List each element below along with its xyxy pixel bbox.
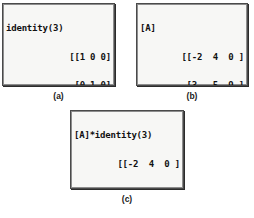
calculator-screen-a[interactable]: identity(3) [[1 0 0] [0 1 0] [0 0 1]]	[2, 3, 115, 86]
caption-a: (a)	[2, 91, 115, 101]
screen-b-entry: [A]	[140, 24, 245, 34]
caption-b: (b)	[136, 91, 248, 101]
screen-c-text: [A]*identity(3) [[-2 4 0 ] [3 5 9 ] [0 8…	[74, 112, 181, 189]
screen-a-result-row-1: [[1 0 0]	[6, 53, 112, 63]
caption-c: (c)	[70, 194, 184, 204]
calculator-screens-figure: identity(3) [[1 0 0] [0 1 0] [0 0 1]] (a…	[0, 0, 254, 218]
screen-c-result-row-1: [[-2 4 0 ]	[74, 160, 181, 170]
calculator-panel-b: [A] [[-2 4 0 ] [3 5 9 ] [0 8 -6]]	[136, 3, 248, 86]
screen-b-result-row-2: [3 5 9 ]	[140, 81, 245, 86]
screen-b-result-row-1: [[-2 4 0 ]	[140, 53, 245, 63]
screen-a-entry: identity(3)	[6, 24, 112, 34]
screen-c-entry: [A]*identity(3)	[74, 131, 181, 141]
calculator-screen-c[interactable]: [A]*identity(3) [[-2 4 0 ] [3 5 9 ] [0 8…	[70, 110, 184, 189]
screen-b-text: [A] [[-2 4 0 ] [3 5 9 ] [0 8 -6]]	[140, 5, 245, 86]
screen-a-text: identity(3) [[1 0 0] [0 1 0] [0 0 1]]	[6, 5, 112, 86]
calculator-panel-c: [A]*identity(3) [[-2 4 0 ] [3 5 9 ] [0 8…	[70, 110, 184, 189]
screen-c-result-row-2: [3 5 9 ]	[74, 188, 181, 189]
calculator-screen-b[interactable]: [A] [[-2 4 0 ] [3 5 9 ] [0 8 -6]]	[136, 3, 248, 86]
screen-a-result-row-2: [0 1 0]	[6, 81, 112, 86]
calculator-panel-a: identity(3) [[1 0 0] [0 1 0] [0 0 1]]	[2, 3, 115, 86]
